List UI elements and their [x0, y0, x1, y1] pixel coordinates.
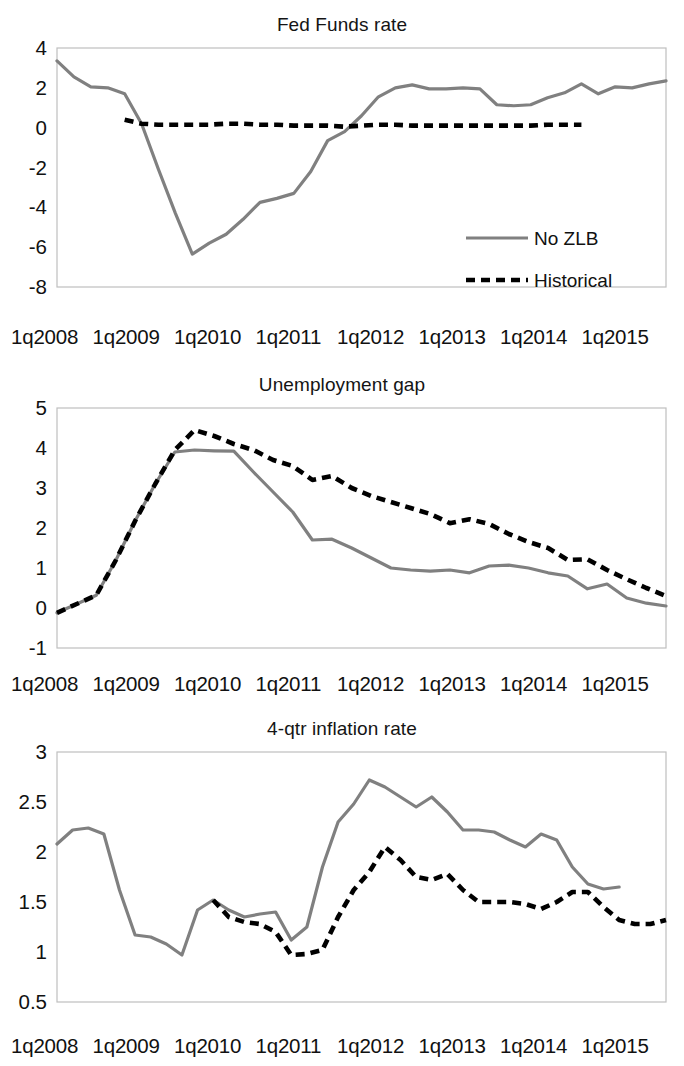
y-tick-label: 3 — [36, 476, 47, 499]
y-tick-label: 2.5 — [19, 790, 48, 813]
x-tick-label: 1q2009 — [93, 670, 160, 698]
y-tick-label: 4 — [36, 38, 47, 59]
x-tick-label: 1q2010 — [174, 670, 241, 698]
x-tick-label: 1q2014 — [500, 1032, 567, 1060]
plot-border — [57, 408, 666, 648]
y-tick-label: 4 — [36, 436, 47, 459]
x-tick-label: 1q2014 — [500, 323, 567, 351]
plot-svg-inflation-rate: 32.521.510.5 — [0, 742, 684, 1032]
y-tick-label: 2 — [36, 76, 47, 99]
x-tick-label: 1q2009 — [93, 323, 160, 351]
y-tick-label: -2 — [29, 156, 47, 179]
chart-title-fed-funds: Fed Funds rate — [0, 0, 684, 38]
x-tick-label: 1q2010 — [174, 323, 241, 351]
x-axis-labels-inflation-rate: 1q20081q20091q20101q20111q20121q20131q20… — [0, 1032, 684, 1062]
x-tick-label: 1q2013 — [419, 1032, 486, 1060]
x-tick-label: 1q2013 — [419, 323, 486, 351]
x-tick-label: 1q2008 — [11, 670, 78, 698]
plot-area-unemployment-gap: 543210-1 — [0, 398, 684, 670]
legend-label-no-zlb: No ZLB — [534, 228, 598, 249]
y-tick-label: -8 — [29, 275, 47, 298]
y-tick-label: 1.5 — [19, 890, 48, 913]
x-tick-label: 1q2008 — [11, 323, 78, 351]
x-tick-label: 1q2015 — [582, 670, 649, 698]
y-tick-label: 2 — [36, 840, 47, 863]
x-tick-label: 1q2011 — [256, 670, 322, 698]
x-tick-label: 1q2015 — [582, 1032, 649, 1060]
y-tick-label: 0.5 — [19, 990, 48, 1013]
x-tick-label: 1q2012 — [337, 1032, 404, 1060]
plot-svg-unemployment-gap: 543210-1 — [0, 398, 684, 670]
y-tick-label: 2 — [36, 516, 47, 539]
x-tick-label: 1q2011 — [256, 323, 322, 351]
chart-panel-unemployment-gap: Unemployment gap 543210-1 1q20081q20091q… — [0, 358, 684, 700]
y-tick-label: 1 — [36, 940, 47, 963]
chart-title-unemployment-gap: Unemployment gap — [0, 358, 684, 398]
x-axis-labels-unemployment-gap: 1q20081q20091q20101q20111q20121q20131q20… — [0, 670, 684, 700]
chart-title-inflation-rate: 4-qtr inflation rate — [0, 700, 684, 742]
x-tick-label: 1q2011 — [256, 1032, 322, 1060]
y-tick-label: -1 — [29, 636, 47, 659]
plot-area-inflation-rate: 32.521.510.5 — [0, 742, 684, 1032]
x-tick-label: 1q2009 — [93, 1032, 160, 1060]
x-tick-label: 1q2008 — [11, 1032, 78, 1060]
plot-area-fed-funds: 420-2-4-6-8No ZLBHistorical — [0, 38, 684, 323]
y-tick-label: 0 — [36, 116, 47, 139]
y-tick-label: 3 — [36, 742, 47, 763]
y-tick-label: -6 — [29, 235, 47, 258]
y-tick-label: -4 — [29, 195, 47, 218]
y-tick-label: 1 — [36, 556, 47, 579]
chart-panel-inflation-rate: 4-qtr inflation rate 32.521.510.5 1q2008… — [0, 700, 684, 1066]
x-tick-label: 1q2012 — [337, 323, 404, 351]
figure-page: Fed Funds rate 420-2-4-6-8No ZLBHistoric… — [0, 0, 684, 1066]
x-tick-label: 1q2015 — [582, 323, 649, 351]
x-axis-labels-fed-funds: 1q20081q20091q20101q20111q20121q20131q20… — [0, 323, 684, 353]
x-tick-label: 1q2010 — [174, 1032, 241, 1060]
x-tick-label: 1q2013 — [419, 670, 486, 698]
x-tick-label: 1q2012 — [337, 670, 404, 698]
x-tick-label: 1q2014 — [500, 670, 567, 698]
y-tick-label: 5 — [36, 398, 47, 419]
chart-panel-fed-funds: Fed Funds rate 420-2-4-6-8No ZLBHistoric… — [0, 0, 684, 358]
y-tick-label: 0 — [36, 596, 47, 619]
legend-label-historical: Historical — [534, 270, 612, 291]
plot-svg-fed-funds: 420-2-4-6-8No ZLBHistorical — [0, 38, 684, 323]
plot-border — [57, 48, 666, 287]
